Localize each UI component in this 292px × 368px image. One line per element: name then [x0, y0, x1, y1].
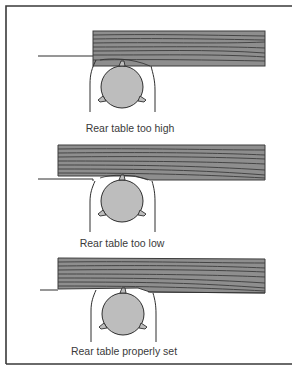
cutterhead-icon [98, 61, 146, 108]
rear-table-edge [153, 293, 156, 342]
cutterhead-icon [99, 288, 147, 335]
front-table-edge [91, 290, 96, 342]
panel-properly-set: Rear table properly set [40, 258, 265, 357]
board [93, 31, 265, 66]
jointer-table-diagram: Rear table too high Rear tabl [0, 0, 292, 368]
cutterhead-icon [98, 175, 146, 222]
rear-table-edge [152, 181, 155, 232]
board [58, 145, 265, 180]
front-table-edge [90, 60, 96, 112]
caption-too-high: Rear table too high [86, 122, 175, 134]
front-table-edge [90, 181, 95, 232]
rear-table-edge [151, 66, 155, 112]
panel-too-high: Rear table too high [38, 31, 265, 134]
caption-too-low: Rear table too low [80, 237, 165, 249]
board [58, 258, 265, 293]
panel-too-low: Rear table too low [38, 145, 265, 249]
caption-properly-set: Rear table properly set [71, 345, 177, 357]
